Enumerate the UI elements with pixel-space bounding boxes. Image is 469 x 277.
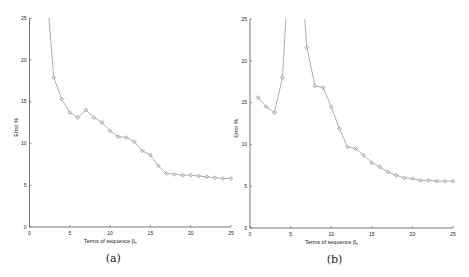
data-point-marker xyxy=(213,176,217,180)
data-point-marker xyxy=(411,177,415,181)
data-point-marker xyxy=(321,86,325,90)
x-tick-label: 15 xyxy=(148,230,154,236)
data-point-marker xyxy=(189,173,193,177)
x-tick-label: 5 xyxy=(289,231,292,237)
y-tick-label: 0 xyxy=(24,224,27,230)
y-axis-label: Error % xyxy=(13,118,19,137)
figure: 05101520250510152025Terms of sequence βn… xyxy=(0,0,469,277)
data-series xyxy=(256,0,455,183)
data-point-marker xyxy=(394,173,398,177)
x-tick-label: 0 xyxy=(249,231,252,237)
data-series xyxy=(46,0,233,180)
data-point-marker xyxy=(229,177,233,181)
y-tick-label: 20 xyxy=(241,58,247,64)
data-point-marker xyxy=(173,172,177,176)
data-point-marker xyxy=(419,178,423,182)
panel-caption: (a) xyxy=(106,252,121,265)
panel-caption: (b) xyxy=(327,253,343,266)
data-point-marker xyxy=(221,177,225,181)
y-tick-label: 0 xyxy=(244,225,247,231)
x-tick-label: 20 xyxy=(410,231,416,237)
data-point-marker xyxy=(124,136,128,140)
y-axis-label: Error % xyxy=(233,119,239,138)
y-tick-label: 5 xyxy=(24,182,27,188)
series-line xyxy=(46,0,231,179)
chart-panel-a: 05101520250510152025Terms of sequence βn… xyxy=(13,0,234,265)
x-tick-label: 10 xyxy=(328,231,334,237)
x-tick-label: 15 xyxy=(369,231,375,237)
x-tick-label: 25 xyxy=(450,231,456,237)
y-tick-label: 10 xyxy=(241,141,247,147)
data-point-marker xyxy=(337,127,341,131)
x-tick-label: 25 xyxy=(228,230,234,236)
x-tick-label: 5 xyxy=(68,230,71,236)
data-point-marker xyxy=(451,179,455,183)
x-axis-label: Terms of sequence βn xyxy=(305,239,358,246)
data-point-marker xyxy=(346,145,350,149)
data-point-marker xyxy=(313,84,317,88)
series-line xyxy=(258,0,453,181)
data-point-marker xyxy=(435,179,439,183)
data-point-marker xyxy=(427,178,431,182)
data-point-marker xyxy=(386,170,390,174)
data-point-marker xyxy=(305,46,309,50)
y-tick-label: 10 xyxy=(21,140,27,146)
data-point-marker xyxy=(197,174,201,178)
y-tick-label: 20 xyxy=(21,57,27,63)
y-tick-label: 5 xyxy=(244,183,247,189)
data-point-marker xyxy=(281,76,285,80)
y-tick-label: 15 xyxy=(21,98,27,104)
y-tick-label: 25 xyxy=(241,16,247,22)
y-tick-label: 15 xyxy=(241,99,247,105)
x-tick-label: 0 xyxy=(28,230,31,236)
data-point-marker xyxy=(60,97,64,101)
data-point-marker xyxy=(402,176,406,180)
data-point-marker xyxy=(329,105,333,109)
x-tick-label: 20 xyxy=(188,230,194,236)
data-point-marker xyxy=(52,75,56,79)
y-tick-label: 25 xyxy=(21,15,27,21)
data-point-marker xyxy=(443,179,447,183)
x-axis-label: Terms of sequence βn xyxy=(84,238,137,245)
data-point-marker xyxy=(205,175,209,179)
x-tick-label: 10 xyxy=(107,230,113,236)
chart-panel-b: 05101520250510152025Terms of sequence βn… xyxy=(233,0,456,266)
data-point-marker xyxy=(181,173,185,177)
data-point-marker xyxy=(68,111,72,115)
